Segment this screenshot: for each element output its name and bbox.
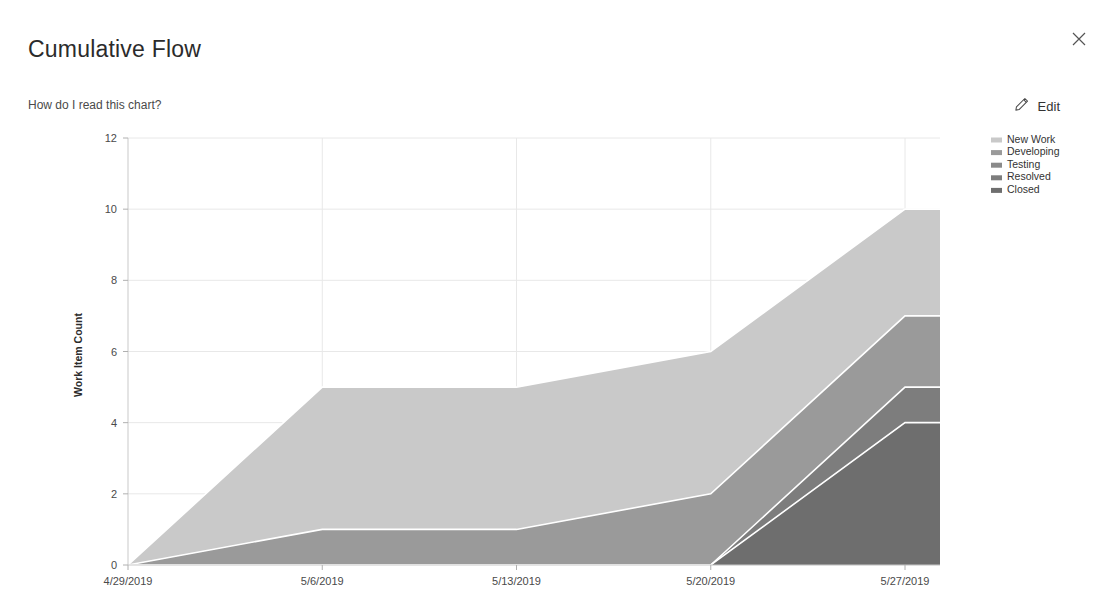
y-axis-tick-label: 0 [111, 559, 117, 571]
y-axis-tick-label: 4 [111, 417, 117, 429]
y-axis-tick-label: 6 [111, 346, 117, 358]
x-axis-tick-label: 5/6/2019 [301, 575, 344, 587]
legend-swatch [991, 175, 1002, 180]
x-axis-tick-labels: 4/29/20195/6/20195/13/20195/20/20195/27/… [104, 565, 930, 587]
y-axis-tick-label: 10 [105, 203, 117, 215]
y-axis-tick-labels: 024681012 [105, 132, 128, 571]
y-axis-tick-label: 8 [111, 274, 117, 286]
chart-legend: New WorkDevelopingTestingResolvedClosed [991, 133, 1060, 195]
y-axis-tick-label: 2 [111, 488, 117, 500]
x-axis-tick-label: 5/27/2019 [881, 575, 930, 587]
x-axis-tick-label: 5/20/2019 [686, 575, 735, 587]
y-axis-tick-label: 12 [105, 132, 117, 144]
legend-swatch [991, 188, 1002, 193]
legend-item-label: Resolved [1007, 170, 1051, 182]
y-axis-title: Work Item Count [72, 313, 84, 397]
legend-item-label: Developing [1007, 145, 1060, 157]
x-axis-tick-label: 4/29/2019 [104, 575, 153, 587]
legend-swatch [991, 163, 1002, 168]
cumulative-flow-chart: 024681012 4/29/20195/6/20195/13/20195/20… [0, 0, 1106, 614]
chart-series-areas [128, 209, 940, 565]
x-axis-tick-label: 5/13/2019 [492, 575, 541, 587]
legend-swatch [991, 150, 1002, 155]
legend-item-label: New Work [1007, 133, 1056, 145]
legend-item-label: Testing [1007, 158, 1040, 170]
legend-swatch [991, 138, 1002, 143]
legend-item-label: Closed [1007, 183, 1040, 195]
chart-svg: 024681012 4/29/20195/6/20195/13/20195/20… [0, 0, 1106, 614]
